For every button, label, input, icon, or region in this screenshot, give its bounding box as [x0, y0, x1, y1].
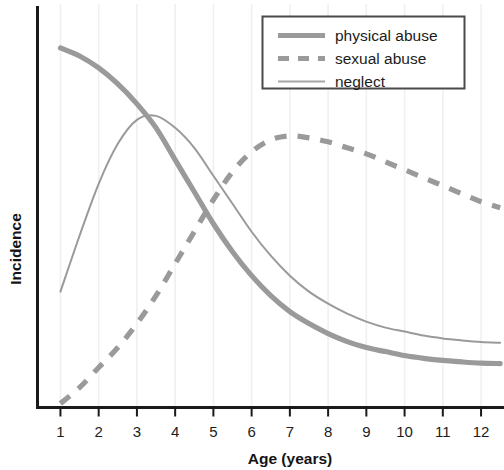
data-curves: [60, 48, 500, 404]
x-tick-label-10: 10: [396, 423, 413, 440]
legend-label-sexual-abuse: sexual abuse: [335, 50, 426, 67]
x-tick-label-8: 8: [324, 423, 332, 440]
series-line-physical-abuse: [60, 48, 500, 364]
chart-container: 123456789101112 Age (years) Incidence ph…: [0, 0, 504, 470]
x-tick-label-6: 6: [247, 423, 255, 440]
legend-label-physical-abuse: physical abuse: [335, 27, 438, 44]
x-tick-label-1: 1: [56, 423, 64, 440]
x-tick-label-5: 5: [209, 423, 217, 440]
x-tick-label-2: 2: [95, 423, 103, 440]
x-tick-label-9: 9: [362, 423, 370, 440]
x-tick-label-12: 12: [473, 423, 490, 440]
series-line-neglect: [60, 115, 500, 343]
legend-label-neglect: neglect: [335, 73, 386, 90]
incidence-by-age-line-chart: 123456789101112 Age (years) Incidence ph…: [0, 0, 504, 470]
x-axis-title: Age (years): [248, 450, 332, 467]
x-tick-label-7: 7: [286, 423, 294, 440]
x-axis-tick-labels: 123456789101112: [56, 423, 489, 440]
y-axis-title: Incidence: [7, 213, 24, 285]
legend: physical abuse sexual abuse neglect: [263, 17, 465, 91]
x-tick-label-4: 4: [171, 423, 179, 440]
x-tick-label-11: 11: [435, 423, 451, 440]
series-line-sexual-abuse: [60, 136, 500, 404]
x-tick-label-3: 3: [133, 423, 141, 440]
